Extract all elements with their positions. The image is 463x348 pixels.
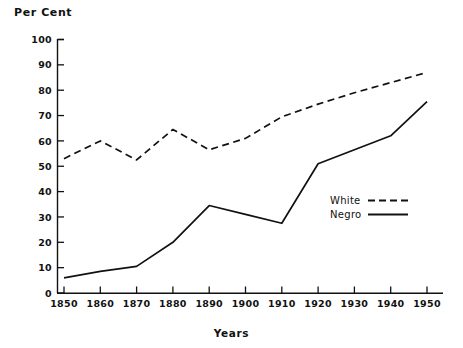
- y-tick-label: 90: [38, 59, 52, 70]
- x-tick-label: 1870: [123, 298, 151, 309]
- x-tick-label: 1860: [86, 298, 114, 309]
- x-tick-label: 1920: [304, 298, 332, 309]
- line-chart-plot: 0102030405060708090100 18501860187018801…: [0, 0, 463, 348]
- y-tick-label: 50: [38, 161, 52, 172]
- y-tick-label: 10: [38, 262, 52, 273]
- x-tick-label: 1940: [377, 298, 405, 309]
- y-tick-label: 20: [38, 237, 52, 248]
- axis-lines: [57, 39, 443, 293]
- x-tick-label: 1910: [268, 298, 296, 309]
- y-axis-ticks: 0102030405060708090100: [31, 34, 64, 299]
- y-tick-label: 60: [38, 136, 52, 147]
- y-tick-label: 30: [38, 212, 52, 223]
- x-tick-label: 1890: [195, 298, 223, 309]
- y-axis-title: Per Cent: [14, 6, 72, 19]
- y-tick-label: 70: [38, 110, 52, 121]
- legend-label-white: White: [330, 195, 361, 206]
- x-axis-ticks: 1850186018701880189019001910192019301940…: [50, 287, 441, 310]
- legend-label-negro: Negro: [330, 209, 362, 220]
- series-line-negro: [64, 102, 427, 278]
- y-tick-label: 0: [45, 288, 52, 299]
- y-tick-label: 100: [31, 34, 52, 45]
- x-tick-label: 1880: [159, 298, 187, 309]
- chart-figure: Per Cent 0102030405060708090100 18501860…: [0, 0, 463, 348]
- x-tick-label: 1930: [341, 298, 369, 309]
- x-axis-title: Years: [0, 327, 463, 339]
- y-tick-label: 40: [38, 186, 52, 197]
- series-line-white: [64, 72, 427, 159]
- y-tick-label: 80: [38, 85, 52, 96]
- data-series-group: [64, 72, 427, 277]
- x-tick-label: 1850: [50, 298, 78, 309]
- chart-legend: WhiteNegro: [330, 195, 408, 220]
- x-tick-label: 1950: [413, 298, 441, 309]
- x-tick-label: 1900: [232, 298, 260, 309]
